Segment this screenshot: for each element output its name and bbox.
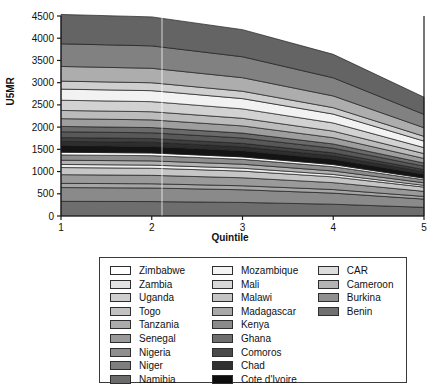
legend-swatch-icon [318, 280, 339, 289]
legend-swatch-icon [212, 361, 233, 370]
legend-item-label: Zimbabwe [139, 265, 185, 276]
legend-item-label: Mali [241, 279, 259, 290]
legend-swatch-icon [110, 266, 131, 275]
legend-item[interactable]: Uganda [110, 291, 212, 304]
legend-item[interactable]: Madagascar [212, 305, 318, 318]
legend-item-label: Ghana [241, 333, 271, 344]
y-axis-tick-label: 1500 [32, 144, 55, 155]
y-axis-title: U5MR [5, 90, 16, 106]
legend-item[interactable]: Nigeria [110, 346, 212, 359]
y-axis-tick-label: 1000 [32, 166, 55, 177]
legend-item-label: Niger [139, 360, 163, 371]
legend-item-label: Cameroon [347, 279, 394, 290]
legend-swatch-icon [212, 280, 233, 289]
legend-swatch-icon [110, 280, 131, 289]
y-axis-tick-label: 4500 [32, 11, 55, 22]
legend-item-label: Madagascar [241, 306, 296, 317]
y-axis-tick-label: 3000 [32, 77, 55, 88]
legend-swatch-icon [110, 307, 131, 316]
legend-item-label: Nigeria [139, 347, 171, 358]
legend-item-label: Comoros [241, 347, 282, 358]
y-axis-tick-label: 2000 [32, 122, 55, 133]
legend-item[interactable]: Chad [212, 359, 318, 372]
legend-item[interactable]: Zimbabwe [110, 264, 212, 277]
y-axis-tick-label: 2500 [32, 99, 55, 110]
legend-item[interactable]: Namibia [110, 373, 212, 386]
legend-swatch-icon [318, 266, 339, 275]
legend-item[interactable]: Togo [110, 305, 212, 318]
y-axis-tick-label: 500 [37, 188, 54, 199]
legend-item-label: CAR [347, 265, 368, 276]
legend-swatch-icon [110, 320, 131, 329]
legend-item-label: Namibia [139, 374, 176, 385]
legend-item-label: Uganda [139, 292, 174, 303]
legend: ZimbabweZambiaUgandaTogoTanzaniaSenegalN… [99, 257, 407, 383]
legend-swatch-icon [110, 361, 131, 370]
legend-item-label: Burkina [347, 292, 381, 303]
legend-item[interactable]: Kenya [212, 318, 318, 331]
legend-item[interactable]: Benin [318, 305, 406, 318]
legend-columns: ZimbabweZambiaUgandaTogoTanzaniaSenegalN… [100, 264, 406, 386]
y-axis-tick-label: 4000 [32, 33, 55, 44]
x-axis-title: Quintile [0, 232, 440, 243]
legend-swatch-icon [212, 320, 233, 329]
legend-swatch-icon [110, 348, 131, 357]
y-axis-tick-label: 0 [48, 211, 54, 222]
plot-area: 0500100015002000250030003500400045001234… [0, 0, 440, 250]
legend-item-label: Tanzania [139, 319, 179, 330]
legend-item-label: Malawi [241, 292, 272, 303]
legend-item[interactable]: Ghana [212, 332, 318, 345]
legend-item[interactable]: Comoros [212, 346, 318, 359]
legend-item[interactable]: Cote d'Ivoire [212, 373, 318, 386]
legend-swatch-icon [212, 375, 233, 384]
legend-swatch-icon [110, 375, 131, 384]
y-axis-tick-label: 3500 [32, 55, 55, 66]
figure: 0500100015002000250030003500400045001234… [0, 0, 440, 392]
legend-swatch-icon [212, 334, 233, 343]
legend-swatch-icon [318, 307, 339, 316]
legend-item-label: Senegal [139, 333, 176, 344]
legend-item-label: Benin [347, 306, 373, 317]
legend-item[interactable]: CAR [318, 264, 406, 277]
legend-column-2: MozambiqueMaliMalawiMadagascarKenyaGhana… [212, 264, 318, 386]
legend-swatch-icon [212, 293, 233, 302]
legend-column-1: ZimbabweZambiaUgandaTogoTanzaniaSenegalN… [110, 264, 212, 386]
legend-swatch-icon [110, 293, 131, 302]
legend-swatch-icon [110, 334, 131, 343]
legend-item[interactable]: Tanzania [110, 318, 212, 331]
legend-item-label: Mozambique [241, 265, 298, 276]
legend-item[interactable]: Senegal [110, 332, 212, 345]
legend-item-label: Cote d'Ivoire [241, 374, 297, 385]
legend-item-label: Zambia [139, 279, 172, 290]
legend-item[interactable]: Mozambique [212, 264, 318, 277]
legend-item-label: Togo [139, 306, 161, 317]
legend-swatch-icon [318, 293, 339, 302]
legend-item-label: Kenya [241, 319, 269, 330]
legend-item[interactable]: Niger [110, 359, 212, 372]
x-axis-title-text: Quintile [211, 232, 248, 243]
stacked-area-chart: 0500100015002000250030003500400045001234… [0, 0, 440, 250]
legend-item-label: Chad [241, 360, 265, 371]
legend-swatch-icon [212, 307, 233, 316]
legend-item[interactable]: Malawi [212, 291, 318, 304]
legend-item[interactable]: Burkina [318, 291, 406, 304]
legend-item[interactable]: Zambia [110, 278, 212, 291]
legend-column-3: CARCameroonBurkinaBenin [318, 264, 406, 386]
legend-swatch-icon [212, 266, 233, 275]
legend-swatch-icon [212, 348, 233, 357]
legend-item[interactable]: Mali [212, 278, 318, 291]
legend-item[interactable]: Cameroon [318, 278, 406, 291]
